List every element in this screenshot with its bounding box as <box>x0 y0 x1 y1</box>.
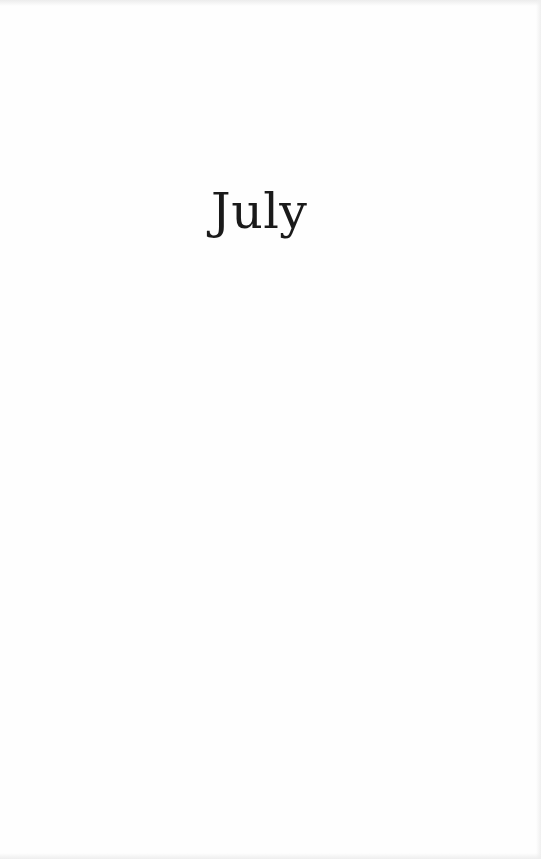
chapter-title: July <box>211 183 308 242</box>
page-bottom-edge-shadow <box>0 853 541 859</box>
page-top-edge-shadow <box>0 0 541 6</box>
book-page: July <box>0 0 541 859</box>
page-right-edge-shadow <box>536 0 541 859</box>
